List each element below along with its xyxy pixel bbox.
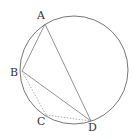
point-label-a: A [36,9,46,22]
segment-bd [22,71,91,121]
geometry-figure: A B C D [0,0,135,139]
point-label-d: D [88,121,97,134]
segment-ab [22,24,45,71]
segment-ad [45,24,91,121]
circle-diagram: A B C D [0,0,135,139]
circumcircle [20,16,128,124]
point-label-b: B [10,66,18,79]
point-label-c: C [37,115,45,128]
